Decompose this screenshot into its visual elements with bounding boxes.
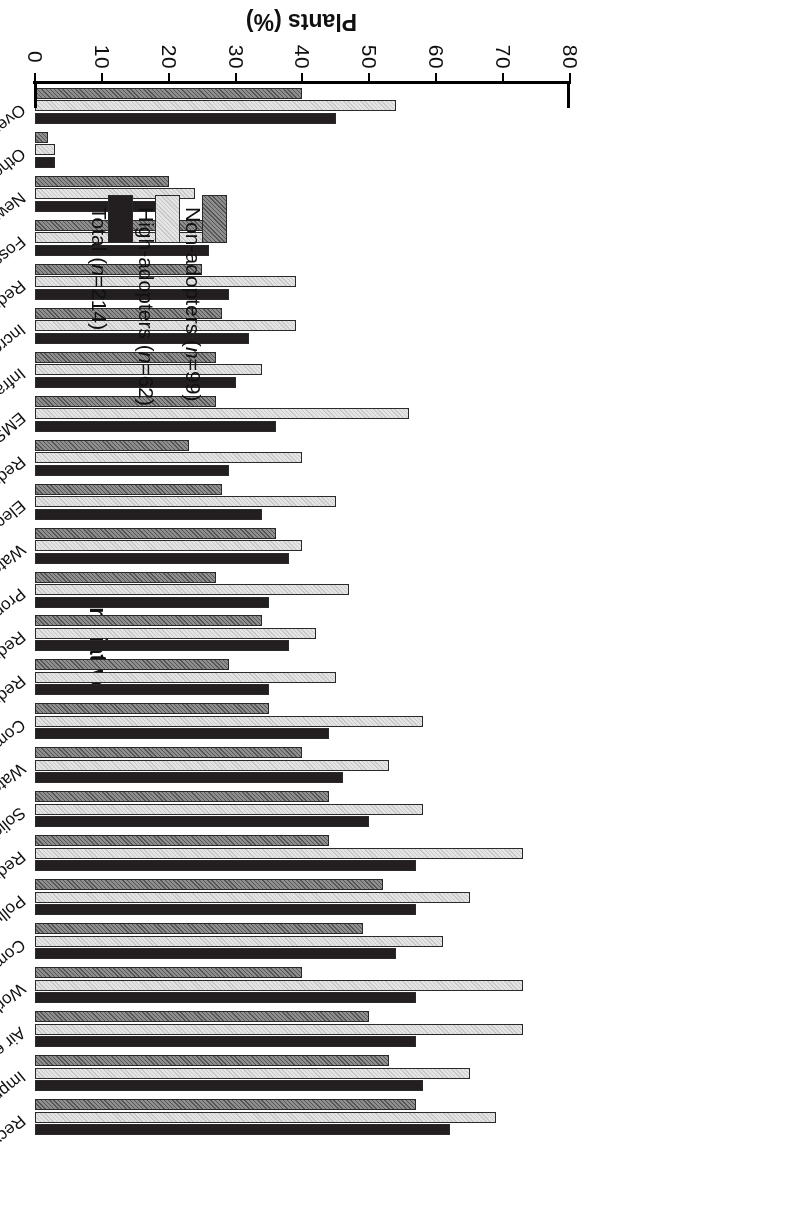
bar-group — [35, 480, 570, 524]
bar-group — [35, 699, 570, 743]
value-tick-label-70: 70 — [491, 37, 515, 77]
bar-non — [35, 132, 48, 143]
legend-label: High-adopters (n=62) — [134, 207, 158, 406]
bar-group — [35, 84, 570, 128]
bar-group — [35, 787, 570, 831]
bar-total — [35, 465, 229, 476]
value-tick-label-10: 10 — [90, 37, 114, 77]
category-label: Recycling *** — [0, 1112, 29, 1221]
chart-screenshot: 01020304050607080 Plants (%) Initiative … — [0, 0, 799, 1221]
bar-non — [35, 176, 169, 187]
bar-group — [35, 304, 570, 348]
bar-total — [35, 157, 55, 168]
value-tick-label-40: 40 — [291, 37, 315, 77]
bar-non — [35, 264, 202, 275]
bar-non — [35, 528, 276, 539]
bar-high — [35, 144, 55, 155]
bar-high — [35, 452, 303, 463]
bar-non — [35, 1099, 416, 1110]
bar-total — [35, 816, 369, 827]
bar-high — [35, 408, 410, 419]
bar-high — [35, 101, 396, 112]
bar-high — [35, 540, 303, 551]
bar-total — [35, 860, 416, 871]
bar-non — [35, 923, 363, 934]
bar-high — [35, 716, 423, 727]
bar-total — [35, 1080, 423, 1091]
bar-group — [35, 1051, 570, 1095]
bar-non — [35, 1011, 369, 1022]
bar-chart-figure: 01020304050607080 Plants (%) Initiative … — [0, 0, 799, 1221]
legend-swatch-solid — [108, 195, 133, 243]
bar-high — [35, 496, 336, 507]
bar-non — [35, 88, 303, 99]
bar-high — [35, 760, 389, 771]
bar-high — [35, 584, 349, 595]
bar-high — [35, 804, 423, 815]
bar-non — [35, 879, 383, 890]
bar-total — [35, 948, 396, 959]
bar-high — [35, 848, 523, 859]
bar-high — [35, 320, 296, 331]
bar-high — [35, 1068, 470, 1079]
value-axis-title: Plants (%) — [33, 8, 570, 35]
bar-high — [35, 980, 523, 991]
value-tick-label-30: 30 — [224, 37, 248, 77]
bar-group — [35, 743, 570, 787]
bar-total — [35, 553, 289, 564]
bar-group — [35, 655, 570, 699]
bar-non — [35, 659, 229, 670]
bar-group — [35, 524, 570, 568]
bar-high — [35, 628, 316, 639]
bar-total — [35, 597, 269, 608]
bar-group — [35, 612, 570, 656]
bar-non — [35, 967, 303, 978]
bar-non — [35, 703, 269, 714]
value-tick-label-80: 80 — [558, 37, 582, 77]
bar-total — [35, 728, 329, 739]
bar-total — [35, 1124, 450, 1135]
bar-high — [35, 276, 296, 287]
bar-total — [35, 113, 336, 124]
bar-total — [35, 641, 289, 652]
bar-total — [35, 772, 343, 783]
bar-high — [35, 672, 336, 683]
bar-non — [35, 572, 216, 583]
axis-cap-zero — [34, 81, 37, 108]
bar-group — [35, 260, 570, 304]
bar-group — [35, 963, 570, 1007]
bar-total — [35, 421, 276, 432]
bar-non — [35, 835, 329, 846]
bar-high — [35, 1112, 496, 1123]
bar-group — [35, 1095, 570, 1139]
bar-non — [35, 484, 222, 495]
axis-cap-max — [567, 81, 570, 108]
value-tick-label-60: 60 — [424, 37, 448, 77]
bar-group — [35, 875, 570, 919]
bar-non — [35, 616, 262, 627]
legend-label: Non-adopters (n=99) — [181, 207, 205, 401]
bar-total — [35, 684, 269, 695]
bar-total — [35, 992, 416, 1003]
bar-high — [35, 936, 443, 947]
bar-group — [35, 348, 570, 392]
bar-group — [35, 392, 570, 436]
bar-group — [35, 919, 570, 963]
bar-high — [35, 892, 470, 903]
legend-label: Total (n=214) — [87, 207, 111, 330]
bar-group — [35, 128, 570, 172]
bar-high — [35, 1024, 523, 1035]
legend-swatch-fine-dots — [155, 195, 180, 243]
value-tick-label-20: 20 — [157, 37, 181, 77]
bar-total — [35, 1036, 416, 1047]
bar-group — [35, 436, 570, 480]
bar-group — [35, 568, 570, 612]
bar-non — [35, 440, 189, 451]
bar-total — [35, 509, 262, 520]
bar-total — [35, 904, 416, 915]
bar-non — [35, 747, 303, 758]
legend-swatch-hatch — [202, 195, 227, 243]
bar-group — [35, 831, 570, 875]
value-tick-label-0: 0 — [23, 37, 47, 77]
value-tick-label-50: 50 — [357, 37, 381, 77]
